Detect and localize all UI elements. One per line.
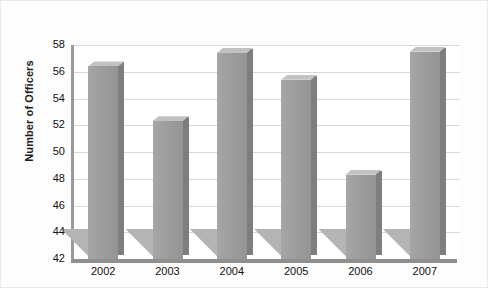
bar-side-face [118, 62, 124, 255]
x-axis-tick-label: 2004 [197, 265, 267, 277]
y-axis-tick-label: 46 [31, 199, 65, 211]
x-axis-tick-label: 2005 [261, 265, 331, 277]
x-axis-tick-label: 2007 [390, 265, 460, 277]
y-axis-tick-label: 52 [31, 118, 65, 130]
gridline [74, 179, 460, 180]
y-axis-tick-label: 44 [31, 225, 65, 237]
bar-shadow [61, 229, 91, 259]
y-axis-tick-label: 48 [31, 172, 65, 184]
gridline [74, 45, 460, 46]
bar-top-face [346, 170, 382, 175]
x-axis-tick-label: 2002 [68, 265, 138, 277]
gridline [74, 72, 460, 73]
y-axis-tick-label: 56 [31, 65, 65, 77]
x-axis-tick-label: 2006 [326, 265, 396, 277]
bar-front-face [153, 121, 183, 259]
bar-shadow [319, 229, 349, 259]
gridline [74, 125, 460, 126]
y-axis-tick-label: 42 [31, 252, 65, 264]
bar-top-face [281, 75, 317, 80]
bar-front-face [217, 53, 247, 259]
y-axis-tick-label: 58 [31, 38, 65, 50]
bar-shadow [190, 229, 220, 259]
bar-side-face [247, 49, 253, 255]
bar-shadow [126, 229, 156, 259]
bar-top-face [410, 47, 446, 52]
y-axis-tick-label: 50 [31, 145, 65, 157]
bar-side-face [183, 117, 189, 255]
bar-side-face [311, 76, 317, 255]
bar-side-face [376, 171, 382, 255]
y-axis-tick-label: 54 [31, 92, 65, 104]
plot-inner [74, 45, 460, 259]
gridline [74, 152, 460, 153]
bar-chart: Number of Officers 424446485052545658 20… [0, 0, 488, 288]
x-axis-tick-label: 2003 [133, 265, 203, 277]
y-axis-title: Number of Officers [23, 31, 35, 191]
gridline [74, 206, 460, 207]
bar-top-face [153, 116, 189, 121]
bar-top-face [88, 61, 124, 66]
bar-front-face [281, 80, 311, 259]
bar-front-face [410, 52, 440, 259]
gridline [74, 99, 460, 100]
bar-side-face [440, 48, 446, 255]
bar-front-face [88, 66, 118, 259]
plot-area [71, 45, 460, 259]
bar-shadow [383, 229, 413, 259]
bar-top-face [217, 48, 253, 53]
bar-shadow [254, 229, 284, 259]
bar-front-face [346, 175, 376, 259]
